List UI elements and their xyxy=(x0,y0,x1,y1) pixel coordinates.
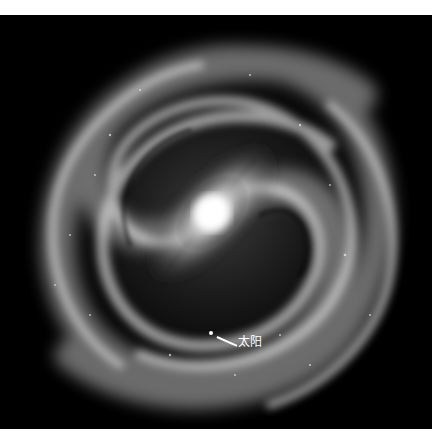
sun-label: 太阳 xyxy=(238,335,262,349)
galactic-core xyxy=(194,195,230,231)
galaxy-image: 太阳 xyxy=(0,15,432,429)
spiral-galaxy xyxy=(0,15,432,429)
sun-marker-dot xyxy=(209,331,213,335)
